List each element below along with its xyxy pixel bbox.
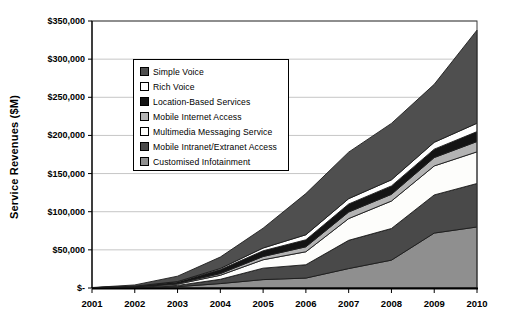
legend-label-multimedia-messaging-service: Multimedia Messaging Service <box>153 127 272 137</box>
x-tick-label: 2006 <box>295 298 316 309</box>
legend-label-customised-infotainment: Customised Infotainment <box>153 157 250 167</box>
legend-item-rich-voice: Rich Voice <box>140 79 288 94</box>
legend-item-simple-voice: Simple Voice <box>140 64 288 79</box>
x-tick-label: 2004 <box>210 298 232 309</box>
y-tick-label: $350,000 <box>47 16 85 26</box>
legend-item-customised-infotainment: Customised Infotainment <box>140 154 288 169</box>
legend-swatch-location-based-services <box>140 97 149 106</box>
x-tick-label: 2010 <box>466 298 487 309</box>
x-tick-label: 2001 <box>81 298 103 309</box>
legend-label-mobile-internet-access: Mobile Internet Access <box>153 112 242 122</box>
y-tick-label: $250,000 <box>47 92 85 102</box>
legend-swatch-mobile-intranet-extranet-access <box>140 142 149 151</box>
legend-label-location-based-services: Location-Based Services <box>153 97 250 107</box>
legend-label-rich-voice: Rich Voice <box>153 82 195 92</box>
legend-label-mobile-intranet-extranet-access: Mobile Intranet/Extranet Access <box>153 142 277 152</box>
revenue-forecast-figure: $350,000$300,000$250,000$200,000$150,000… <box>0 0 507 325</box>
legend-item-mobile-intranet-extranet-access: Mobile Intranet/Extranet Access <box>140 139 288 154</box>
legend-label-simple-voice: Simple Voice <box>153 67 204 77</box>
legend-swatch-mobile-internet-access <box>140 112 149 121</box>
legend-swatch-multimedia-messaging-service <box>140 127 149 136</box>
legend-swatch-simple-voice <box>140 67 149 76</box>
x-tick-label: 2008 <box>381 298 402 309</box>
x-tick-label: 2005 <box>253 298 275 309</box>
y-tick-label: $300,000 <box>47 54 85 64</box>
x-tick-label: 2002 <box>124 298 145 309</box>
y-tick-label: $150,000 <box>47 169 85 179</box>
legend-item-multimedia-messaging-service: Multimedia Messaging Service <box>140 124 288 139</box>
y-tick-label: $100,000 <box>47 207 85 217</box>
x-tick-label: 2003 <box>167 298 188 309</box>
x-tick-label: 2007 <box>338 298 359 309</box>
legend-item-mobile-internet-access: Mobile Internet Access <box>140 109 288 124</box>
y-tick-label: $50,000 <box>52 245 85 255</box>
legend: Simple VoiceRich VoiceLocation-Based Ser… <box>133 59 289 171</box>
legend-item-location-based-services: Location-Based Services <box>140 94 288 109</box>
y-axis-title: Service Revenues ($M) <box>8 77 24 237</box>
y-tick-label: $- <box>77 283 85 293</box>
legend-swatch-rich-voice <box>140 82 149 91</box>
x-tick-label: 2009 <box>424 298 445 309</box>
y-tick-label: $200,000 <box>47 130 85 140</box>
legend-swatch-customised-infotainment <box>140 157 149 166</box>
